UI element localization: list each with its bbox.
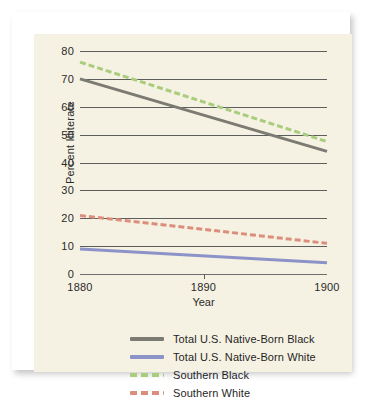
series-line — [80, 62, 327, 141]
series-line — [80, 215, 327, 243]
y-axis-tick-label: 70 — [61, 73, 74, 85]
y-axis-tick-label: 50 — [61, 129, 74, 141]
series-line — [80, 79, 327, 151]
x-axis-tick-label: 1890 — [191, 281, 216, 293]
legend-swatch-icon — [130, 373, 164, 377]
legend-label: Southern Black — [173, 369, 249, 381]
series-line — [80, 249, 327, 263]
legend-item[interactable]: Southern Black — [130, 366, 350, 384]
y-axis-tick-label: 10 — [61, 240, 74, 252]
legend-label: Total U.S. Native-Born White — [173, 351, 316, 363]
x-axis-tick-label: 1900 — [314, 281, 339, 293]
legend-item[interactable]: Total U.S. Native-Born Black — [130, 330, 350, 348]
x-axis-tick-mark — [204, 274, 205, 279]
y-axis-tick-label: 60 — [61, 101, 74, 113]
legend-label: Southern White — [173, 387, 250, 399]
legend-item[interactable]: Total U.S. Native-Born White — [130, 348, 350, 366]
legend-swatch-icon — [130, 337, 164, 341]
legend-swatch-icon — [130, 355, 164, 359]
figure-card: Percent Illiterate 01020304050607080 188… — [12, 12, 350, 370]
legend-swatch-icon — [130, 391, 164, 395]
y-axis-title: Percent Illiterate — [64, 101, 76, 184]
y-axis-tick-label: 30 — [61, 184, 74, 196]
chart-legend: Total U.S. Native-Born BlackTotal U.S. N… — [130, 330, 350, 401]
series-lines — [80, 51, 327, 274]
chart-panel: Percent Illiterate 01020304050607080 188… — [34, 34, 352, 372]
y-axis-tick-label: 20 — [61, 212, 74, 224]
legend-label: Total U.S. Native-Born Black — [173, 333, 315, 345]
legend-item[interactable]: Southern White — [130, 384, 350, 401]
y-axis-tick-label: 0 — [68, 268, 74, 280]
x-axis-title: Year — [192, 296, 214, 308]
plot-area: 01020304050607080 188018901900 Year — [80, 51, 327, 274]
y-axis-tick-label: 40 — [61, 157, 74, 169]
y-axis-tick-label: 80 — [61, 45, 74, 57]
x-axis-tick-label: 1880 — [67, 281, 92, 293]
